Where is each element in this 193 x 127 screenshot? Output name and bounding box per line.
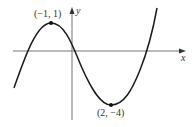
max-point-label: (−1, 1): [34, 9, 61, 19]
cubic-curve: [14, 8, 157, 105]
x-axis-label: x: [181, 53, 185, 63]
min-point-label: (2, −4): [97, 108, 124, 118]
y-axis-arrow-icon: [70, 7, 75, 14]
y-axis-label: y: [76, 6, 80, 16]
local-max-point: [49, 21, 53, 25]
